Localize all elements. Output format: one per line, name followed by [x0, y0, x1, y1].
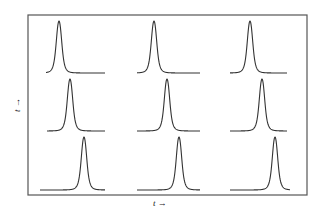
pulse-grid-diagram: t → t → — [0, 0, 320, 211]
pulse-curve-r1-c3 — [230, 21, 287, 73]
x-axis-label: t → — [153, 198, 167, 208]
pulse-curve-r3-c1 — [40, 137, 105, 190]
pulse-curves — [40, 21, 290, 190]
pulse-curve-r2-c3 — [230, 79, 287, 131]
pulse-curve-r1-c1 — [46, 21, 105, 73]
y-axis-label: t → — [12, 98, 22, 112]
pulse-curve-r2-c2 — [137, 79, 200, 131]
pulse-curve-r1-c2 — [137, 21, 200, 73]
pulse-curve-r3-c2 — [137, 137, 200, 190]
pulse-curve-r2-c1 — [47, 79, 105, 131]
pulse-curve-r3-c3 — [230, 137, 290, 190]
